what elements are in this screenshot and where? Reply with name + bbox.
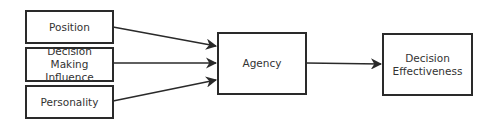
node-decision-effectiveness-label-line-2: Effectiveness [393, 65, 463, 78]
node-agency: Agency [217, 32, 307, 95]
node-position-label: Position [49, 21, 90, 34]
arrow-personality-to-agency [113, 80, 216, 101]
node-decision-effectiveness: Decision Effectiveness [382, 33, 473, 96]
node-personality-label: Personality [41, 96, 99, 109]
arrow-position-to-agency [113, 27, 216, 46]
node-decision-making-influence-label-line-2: Influence [45, 71, 93, 84]
node-personality: Personality [25, 85, 114, 119]
node-decision-making-influence: Decision Making Influence [25, 47, 114, 82]
arrow-agency-to-decision-effectiveness [306, 63, 381, 64]
node-decision-effectiveness-label-line-1: Decision [405, 52, 450, 65]
node-agency-label: Agency [243, 57, 282, 70]
node-position: Position [25, 10, 114, 44]
node-decision-making-influence-label-line-1: Decision Making [27, 45, 112, 71]
